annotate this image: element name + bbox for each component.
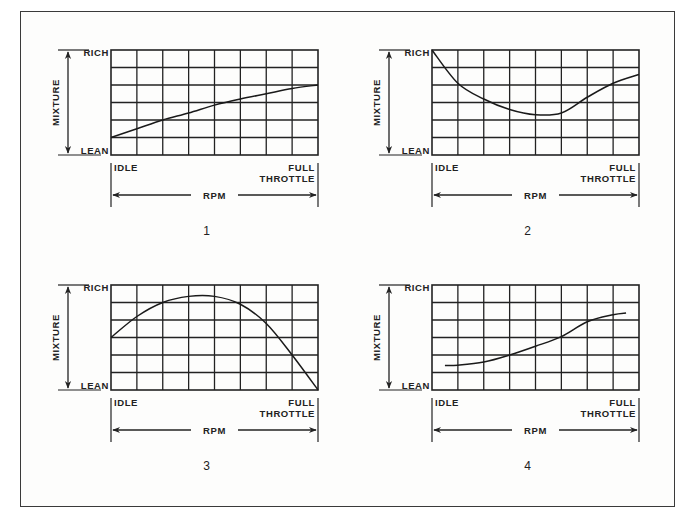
full-label: FULL	[288, 397, 315, 408]
panel-number: 1	[203, 224, 210, 238]
mixture-axis-label: MIXTURE	[371, 314, 382, 361]
mixture-axis-label: MIXTURE	[371, 79, 382, 126]
rpm-axis-label: RPM	[203, 190, 226, 201]
panel-3: RICHLEANMIXTUREIDLEFULLTHROTTLERPM3	[50, 282, 318, 473]
panel-number: 3	[203, 459, 210, 473]
lean-label: LEAN	[81, 380, 109, 391]
panel-number: 2	[524, 224, 531, 238]
grid	[111, 285, 318, 390]
rich-label: RICH	[83, 282, 109, 293]
grid	[432, 285, 639, 390]
idle-label: IDLE	[114, 162, 138, 173]
mixture-axis-label: MIXTURE	[50, 79, 61, 126]
panel-2: RICHLEANMIXTUREIDLEFULLTHROTTLERPM2	[371, 47, 639, 238]
rpm-axis-label: RPM	[524, 425, 547, 436]
grid	[111, 50, 318, 155]
full-label: FULL	[609, 397, 636, 408]
panel-4: RICHLEANMIXTUREIDLEFULLTHROTTLERPM4	[371, 282, 639, 473]
rich-label: RICH	[83, 47, 109, 58]
rpm-axis-label: RPM	[203, 425, 226, 436]
rich-label: RICH	[404, 47, 430, 58]
panel-1: RICHLEANMIXTUREIDLEFULLTHROTTLERPM1	[50, 47, 318, 238]
full-label: FULL	[288, 162, 315, 173]
idle-label: IDLE	[435, 397, 459, 408]
mixture-rpm-figure: RICHLEANMIXTUREIDLEFULLTHROTTLERPM1 RICH…	[0, 0, 683, 516]
lean-label: LEAN	[402, 380, 430, 391]
throttle-label: THROTTLE	[581, 173, 636, 184]
idle-label: IDLE	[435, 162, 459, 173]
throttle-label: THROTTLE	[260, 408, 315, 419]
lean-label: LEAN	[81, 145, 109, 156]
rich-label: RICH	[404, 282, 430, 293]
throttle-label: THROTTLE	[581, 408, 636, 419]
panel-number: 4	[524, 459, 531, 473]
grid	[432, 50, 639, 155]
idle-label: IDLE	[114, 397, 138, 408]
mixture-axis-label: MIXTURE	[50, 314, 61, 361]
full-label: FULL	[609, 162, 636, 173]
throttle-label: THROTTLE	[260, 173, 315, 184]
rpm-axis-label: RPM	[524, 190, 547, 201]
lean-label: LEAN	[402, 145, 430, 156]
